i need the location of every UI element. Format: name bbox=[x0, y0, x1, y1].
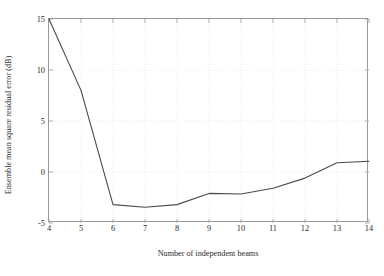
x-tick-label: 9 bbox=[207, 224, 211, 233]
x-tick-label: 6 bbox=[111, 224, 115, 233]
y-tick-label: 0 bbox=[41, 168, 45, 177]
x-tick-label: 7 bbox=[143, 224, 147, 233]
data-line bbox=[49, 19, 369, 207]
x-tick-label: 5 bbox=[79, 224, 83, 233]
x-tick-label: 4 bbox=[47, 224, 51, 233]
x-tick-label: 14 bbox=[365, 224, 373, 233]
x-tick-label: 11 bbox=[269, 224, 277, 233]
y-tick-label: 10 bbox=[37, 66, 45, 75]
chart-figure: Ensemble mean square residual error (dB)… bbox=[0, 0, 384, 276]
x-tick-label: 8 bbox=[175, 224, 179, 233]
plot-area: -5051015 4567891011121314 bbox=[48, 18, 368, 222]
x-tick-label: 12 bbox=[301, 224, 309, 233]
x-tick-label: 10 bbox=[237, 224, 245, 233]
data-series-line bbox=[49, 19, 367, 221]
y-tick-label: 15 bbox=[37, 15, 45, 24]
y-tick-label: -5 bbox=[38, 219, 45, 228]
x-axis-title: Number of independent beams bbox=[48, 249, 368, 258]
y-tick-label: 5 bbox=[41, 117, 45, 126]
y-axis-title: Ensemble mean square residual error (dB) bbox=[2, 5, 16, 245]
x-tick-label: 13 bbox=[333, 224, 341, 233]
